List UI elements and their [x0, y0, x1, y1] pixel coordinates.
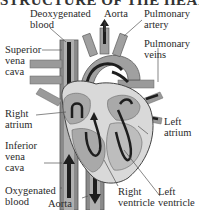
arrow-up-icon	[100, 19, 109, 26]
label-aorta-top: Aorta	[104, 8, 128, 19]
label-deoxygenated-blood: Deoxygenated blood	[30, 8, 91, 30]
label-right-ventricle: Right ventricle	[118, 186, 155, 208]
label-aorta-bottom: Aorta	[48, 198, 72, 209]
label-inferior-vena-cava: Inferior vena cava	[5, 140, 37, 173]
label-superior-vena-cava: Superior vena cava	[5, 44, 41, 77]
label-left-atrium: Left atrium	[164, 116, 191, 138]
label-left-ventricle: Left ventricle	[158, 186, 195, 208]
label-pulmonary-veins: Pulmonary veins	[144, 38, 190, 60]
label-pulmonary-artery: Pulmonary artery	[144, 8, 190, 30]
label-right-atrium: Right atrium	[5, 108, 32, 130]
heart-diagram	[0, 0, 199, 210]
